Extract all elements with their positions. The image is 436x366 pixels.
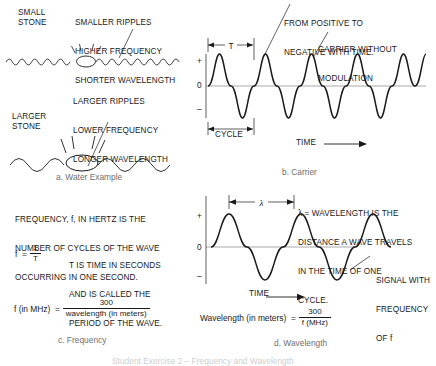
equation-lhs: Wavelength (in meters) = <box>200 313 296 323</box>
panel-a-caption: a. Water Example <box>56 172 122 182</box>
panel-b-axis-zero: 0 <box>197 81 202 91</box>
note-line-1: SMALLER RIPPLES <box>75 18 175 28</box>
panel-a-water-example: SMALL STONE SMALLER RIPPLES HIGHER FREQU… <box>0 0 200 182</box>
fraction-300-over-wavelength: 300 wavelength (in meters) <box>63 299 150 319</box>
leader-line <box>88 122 108 166</box>
splash-rays <box>72 44 102 53</box>
panel-d-axis-plus: + <box>197 212 202 222</box>
time-axis-arrow <box>324 141 367 147</box>
panel-b-time-label: TIME <box>296 138 316 148</box>
panel-b-axis-plus: + <box>197 57 202 67</box>
fraction-numerator: 300 <box>97 299 116 307</box>
panel-d-time-label: TIME <box>249 289 269 299</box>
panel-c-equation-mhz: f (in MHz) = 300 wavelength (in meters) <box>14 299 150 319</box>
equation-lhs: f = <box>15 249 27 259</box>
description-line-1: FREQUENCY, f, IN HERTZ IS THE <box>15 215 160 225</box>
panel-d-signal-note: SIGNAL WITH FREQUENCY OF f <box>376 257 430 363</box>
splash-rays <box>61 136 105 153</box>
panel-d-axis-minus: – <box>197 272 202 282</box>
leader-line-signal <box>350 256 370 270</box>
leader-line-carrier <box>314 32 328 56</box>
panel-c-period-note: T IS TIME IN SECONDS AND IS CALLED THE P… <box>69 242 162 348</box>
note-line-3: PERIOD OF THE WAVE. <box>69 319 162 329</box>
fraction-denominator: wavelength (in meters) <box>63 310 150 318</box>
fraction-one-over-t: 1 T <box>30 244 41 264</box>
note-line-2: FREQUENCY <box>376 305 430 315</box>
fraction-denominator: f (MHz) <box>299 319 331 327</box>
note-line-1: T IS TIME IN SECONDS <box>69 261 162 271</box>
fraction-numerator: 1 <box>30 244 40 252</box>
period-dimension: T <box>208 38 254 60</box>
note-line-3: OF f <box>376 334 430 344</box>
note-line-1: SIGNAL WITH <box>376 276 430 286</box>
note-line-1: LARGER RIPPLES <box>73 97 168 107</box>
fraction-300-over-f: 300 f (MHz) <box>299 308 331 328</box>
wavelength-dimension: λ <box>229 195 294 209</box>
panel-d-wavelength: λ = WAVELENGTH IS THE DISTANCE A WAVE TR… <box>196 186 436 362</box>
panel-d-caption: d. Wavelength <box>274 338 327 348</box>
panel-b-cycle-label: CYCLE <box>215 130 243 140</box>
panel-a-small-stone-label: SMALL STONE <box>18 8 47 27</box>
panel-c-frequency: FREQUENCY, f, IN HERTZ IS THE NUMBER OF … <box>0 186 200 362</box>
equation-lhs: f (in MHz) = <box>14 304 60 314</box>
panel-d-axis-zero: 0 <box>197 243 202 253</box>
svg-text:T: T <box>228 41 233 51</box>
svg-text:λ: λ <box>259 198 264 208</box>
panel-b-axis-minus: – <box>197 105 202 115</box>
panel-c-caption: c. Frequency <box>58 335 106 345</box>
figure-bottom-caption-cut: Student Exercise 2 – Frequency and Wavel… <box>112 356 294 366</box>
fraction-numerator: 300 <box>305 308 324 316</box>
panel-b-carrier: FROM POSITIVE TO NEGATIVE WITH TIME. CAR… <box>196 0 436 182</box>
fraction-denominator: T <box>30 255 41 263</box>
panel-c-equation-period: f = 1 T <box>15 244 41 264</box>
panel-d-equation-wavelength: Wavelength (in meters) = 300 f (MHz) <box>200 308 331 328</box>
panel-b-caption: b. Carrier <box>282 167 317 177</box>
time-axis-arrow <box>266 294 305 300</box>
